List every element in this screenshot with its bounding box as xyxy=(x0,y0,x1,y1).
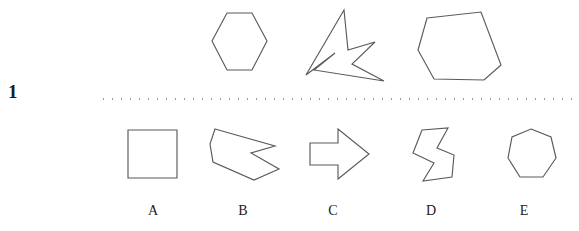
option-d-zigzag-s-shape[interactable] xyxy=(412,126,458,185)
option-label-e[interactable]: E xyxy=(514,204,534,218)
prompt-shape-irregular-pentagon xyxy=(414,7,508,87)
option-c-block-arrow-right[interactable] xyxy=(309,128,373,182)
question-number: 1 xyxy=(8,82,18,101)
concave-arrow-polygon-outline xyxy=(210,129,279,180)
option-a-square[interactable] xyxy=(127,129,179,180)
prompt-shape-row xyxy=(0,0,579,231)
prompt-shape-concave-star-arrow xyxy=(302,6,392,88)
answer-options-row: A B C D E xyxy=(0,0,579,231)
option-b-concave-arrow-polygon[interactable] xyxy=(209,127,283,184)
irregular-pentagon-outline xyxy=(418,12,501,80)
question-sheet: 1 A B C D xyxy=(0,0,579,231)
block-arrow-right-outline xyxy=(310,129,369,179)
option-label-a[interactable]: A xyxy=(143,204,163,218)
option-label-c[interactable]: C xyxy=(323,204,343,218)
heptagon-outline xyxy=(508,129,556,177)
concave-star-arrow-outline xyxy=(306,10,384,81)
prompt-shape-hexagon xyxy=(195,8,273,78)
dotted-divider xyxy=(99,98,574,100)
square-outline xyxy=(128,130,177,178)
option-label-d[interactable]: D xyxy=(421,204,441,218)
option-e-heptagon[interactable] xyxy=(506,128,560,181)
hexagon-outline xyxy=(212,13,267,70)
option-label-b[interactable]: B xyxy=(233,204,253,218)
zigzag-s-shape-outline xyxy=(413,128,454,181)
